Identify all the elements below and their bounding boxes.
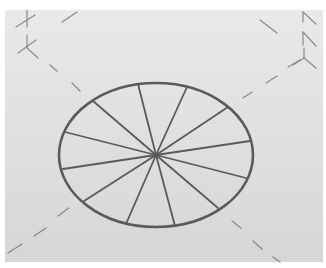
diagram-canvas: [0, 0, 326, 268]
ellipse-center-point: [154, 153, 158, 157]
